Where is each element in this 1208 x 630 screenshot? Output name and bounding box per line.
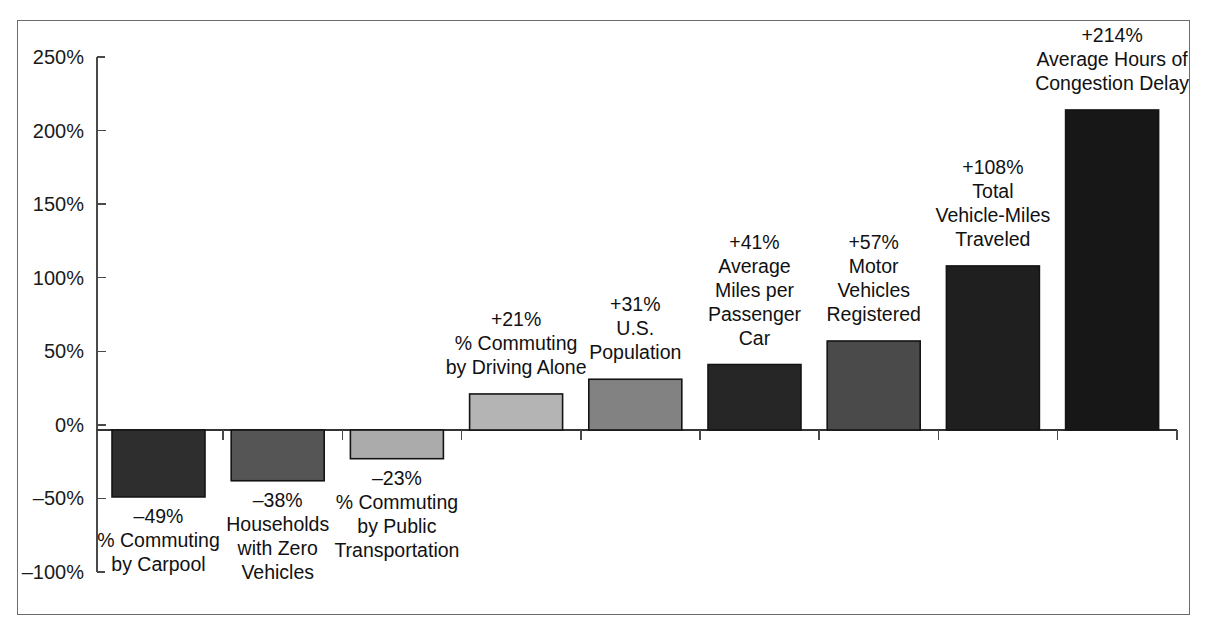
bar-category-label: U.S.	[616, 317, 654, 339]
bar-category-label: Households	[226, 513, 329, 535]
bar-category-label: with Zero	[237, 537, 318, 559]
bar-value-label: –38%	[253, 489, 303, 511]
bar-value-label: +31%	[610, 293, 660, 315]
bar[interactable]	[589, 379, 682, 430]
chart-page: 250%200%150%100%50%0%–50%–100% –49%% Com…	[0, 0, 1208, 630]
bar-category-label: by Carpool	[111, 553, 205, 575]
bar-category-label: Transportation	[334, 539, 459, 561]
bar-category-label: Car	[739, 327, 771, 349]
bar-value-label: +21%	[491, 308, 541, 330]
bar-category-label: % Commuting	[336, 491, 458, 513]
bar-category-label: Passenger	[708, 303, 802, 325]
bar[interactable]	[827, 341, 920, 430]
bar[interactable]	[470, 394, 563, 430]
bar-category-label: by Public	[357, 515, 436, 537]
bar-category-label: Motor	[849, 255, 899, 277]
bar-value-label: +41%	[729, 231, 779, 253]
bar[interactable]	[708, 365, 801, 430]
y-tick-label: 250%	[33, 46, 84, 68]
y-axis: 250%200%150%100%50%0%–50%–100%	[22, 46, 106, 583]
y-tick-label: 200%	[33, 120, 84, 142]
bar-category-label: by Driving Alone	[446, 356, 587, 378]
y-tick-label: –50%	[33, 487, 84, 509]
y-tick-label: –100%	[22, 561, 84, 583]
bar[interactable]	[946, 266, 1039, 430]
bar-category-label: Vehicles	[837, 279, 910, 301]
y-tick-label: 0%	[55, 414, 84, 436]
bar-category-label: Traveled	[955, 228, 1030, 250]
y-tick-label: 100%	[33, 267, 84, 289]
bar[interactable]	[112, 430, 205, 497]
bar[interactable]	[1066, 110, 1159, 430]
bar-category-label: Miles per	[715, 279, 795, 301]
bar-chart: 250%200%150%100%50%0%–50%–100% –49%% Com…	[0, 0, 1208, 630]
y-tick-label: 150%	[33, 193, 84, 215]
bar-value-label: –23%	[372, 467, 422, 489]
bar-value-label: –49%	[134, 505, 184, 527]
bar-category-label: Population	[589, 341, 681, 363]
bar-category-label: Vehicles	[241, 561, 314, 583]
bar-category-label: Registered	[827, 303, 921, 325]
bar-category-label: % Commuting	[97, 529, 219, 551]
bar-category-label: Total	[972, 180, 1013, 202]
bar-value-label: +57%	[848, 231, 898, 253]
bar-value-label: +214%	[1081, 24, 1142, 46]
bar[interactable]	[231, 430, 324, 481]
bar-category-label: Vehicle-Miles	[935, 204, 1050, 226]
bar-category-label: Congestion Delay	[1035, 72, 1189, 94]
bar-category-label: % Commuting	[455, 332, 577, 354]
bar-category-label: Average Hours of	[1036, 48, 1188, 70]
y-tick-label: 50%	[44, 340, 84, 362]
bar-value-label: +108%	[962, 156, 1023, 178]
bar-category-label: Average	[718, 255, 790, 277]
bar[interactable]	[350, 430, 443, 459]
